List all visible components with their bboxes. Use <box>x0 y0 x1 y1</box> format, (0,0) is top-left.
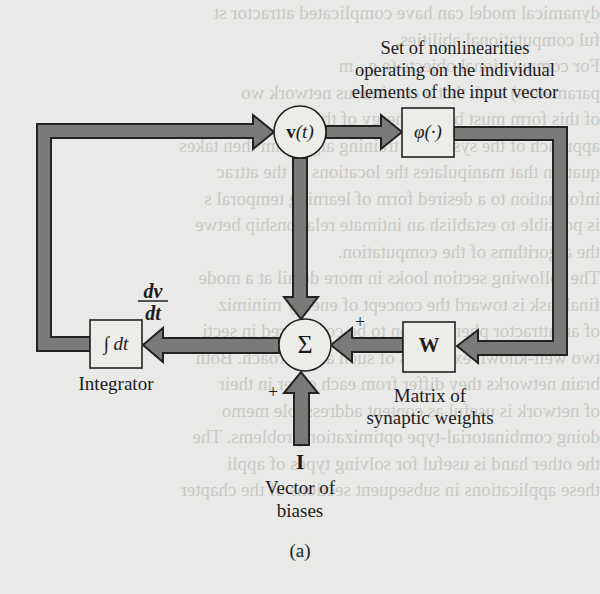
bias-description: Vector of biases <box>240 476 360 522</box>
sum-label: Σ <box>279 331 331 359</box>
state-time-arg: (t) <box>296 121 314 142</box>
arrow-bias-to-sum <box>284 372 318 445</box>
arrow-sum-to-integrator <box>143 328 279 362</box>
derivative-denominator: dt <box>138 302 168 324</box>
desc-line: Set of nonlinearities <box>330 37 580 59</box>
figure-caption: (a) <box>270 540 330 562</box>
arrow-state-to-sum <box>284 158 318 319</box>
bias-label: I <box>285 451 315 473</box>
state-label: v(t) <box>274 121 326 143</box>
weights-label: W <box>403 334 455 356</box>
desc-line: Vector of <box>240 476 360 499</box>
integrator-description: Integrator <box>56 373 176 395</box>
state-vector-symbol: v <box>286 121 296 142</box>
plus-sign-bias: + <box>266 381 280 403</box>
desc-line: biases <box>240 499 360 522</box>
integrator-label: ∫ dt <box>90 333 142 355</box>
derivative-numerator: dv <box>138 280 168 302</box>
feedback-path-right <box>454 127 567 363</box>
arrow-weights-to-sum <box>331 328 403 362</box>
desc-line: elements of the input vector <box>330 81 580 103</box>
desc-line: Matrix of <box>350 385 510 407</box>
nonlinearity-description: Set of nonlinearities operating on the i… <box>330 37 580 103</box>
plus-sign-weights: + <box>353 311 367 333</box>
arrow-state-to-nonlinearity <box>326 115 402 149</box>
desc-line: synaptic weights <box>350 407 510 429</box>
desc-line: operating on the individual <box>330 59 580 81</box>
nonlinearity-label: φ(·) <box>402 121 454 143</box>
weights-description: Matrix of synaptic weights <box>350 385 510 429</box>
